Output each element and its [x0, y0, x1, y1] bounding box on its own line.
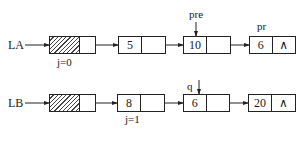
la-list-label: LA [8, 39, 24, 51]
hatched-head-cell [50, 95, 80, 111]
arrows-layer [0, 0, 300, 142]
lb-list-label: LB [8, 97, 23, 109]
hatched-head-cell [50, 37, 80, 53]
pointer-cell [80, 37, 95, 53]
lb-node-3: 20 ∧ [248, 94, 296, 112]
pointer-cell [142, 37, 165, 53]
node-value: 8 [118, 95, 141, 111]
node-value: 6 [250, 37, 273, 53]
node-value: 6 [184, 95, 207, 111]
linked-list-diagram: LA j=0 pre pr 5 10 6 ∧ LB j=1 q 8 6 20 ∧ [0, 0, 300, 142]
la-node-1: 5 [118, 36, 166, 54]
node-value: 20 [249, 95, 272, 111]
null-pointer-icon: ∧ [272, 95, 295, 111]
j0-index-label: j=0 [57, 57, 72, 68]
lb-node-1: 8 [117, 94, 165, 112]
node-value: 10 [184, 37, 207, 53]
lb-head-node [49, 94, 96, 112]
j1-index-label: j=1 [125, 114, 140, 125]
pointer-cell [141, 95, 164, 111]
la-node-3: 6 ∧ [249, 36, 296, 54]
pointer-cell [207, 37, 230, 53]
la-head-node [49, 36, 96, 54]
q-pointer-label: q [187, 81, 193, 92]
pr-pointer-label: pr [257, 21, 266, 32]
pointer-cell [80, 95, 95, 111]
pointer-cell [207, 95, 230, 111]
pre-pointer-label: pre [189, 9, 203, 20]
null-pointer-icon: ∧ [273, 37, 296, 53]
lb-node-2: 6 [183, 94, 230, 112]
la-node-2: 10 [183, 36, 231, 54]
node-value: 5 [119, 37, 142, 53]
